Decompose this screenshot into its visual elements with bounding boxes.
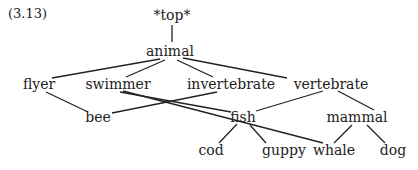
edge-invertebrate-bee bbox=[112, 92, 217, 113]
edge-flyer-bee bbox=[46, 92, 88, 112]
edge-mammal-dog bbox=[367, 125, 385, 143]
node-bee: bee bbox=[85, 109, 111, 125]
edge-mammal-whale bbox=[334, 125, 352, 143]
node-whale: whale bbox=[313, 142, 355, 158]
node-vertebrate: vertebrate bbox=[294, 76, 369, 92]
node-top: *top* bbox=[153, 7, 190, 23]
node-dog: dog bbox=[380, 142, 406, 158]
node-guppy: guppy bbox=[262, 142, 306, 158]
edge-fish-cod bbox=[219, 124, 237, 143]
edge-vertebrate-fish bbox=[256, 91, 323, 111]
edge-swimmer-whale bbox=[123, 91, 323, 143]
node-mammal: mammal bbox=[327, 109, 388, 125]
node-invertebrate: invertebrate bbox=[187, 76, 275, 92]
edge-animal-swimmer bbox=[126, 60, 165, 77]
node-animal: animal bbox=[146, 43, 194, 59]
edge-animal-vertebrate bbox=[183, 58, 287, 78]
node-cod: cod bbox=[198, 142, 223, 158]
hierarchy-diagram: (3.13) *top* animal flyer swimmer invert… bbox=[0, 0, 418, 170]
node-fish: fish bbox=[230, 109, 256, 125]
node-flyer: flyer bbox=[23, 76, 55, 92]
edge-vertebrate-mammal bbox=[338, 91, 374, 110]
node-swimmer: swimmer bbox=[85, 76, 150, 92]
